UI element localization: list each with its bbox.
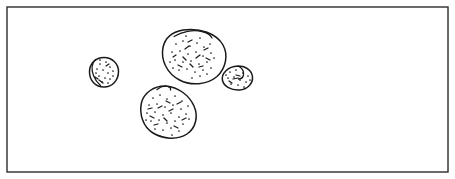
stone-bottom-middle-speckle-22 [154, 128, 156, 130]
stone-top-large-speckle-7 [179, 50, 181, 52]
stone-bottom-middle-speckle-24 [170, 127, 172, 129]
stone-top-large-speckle-26 [172, 67, 174, 69]
stone-top-large-speckle-28 [199, 75, 201, 77]
stone-top-large-speckle-6 [171, 51, 173, 53]
stone-left-small-speckle-1 [105, 61, 107, 63]
stone-top-large-speckle-13 [182, 61, 184, 63]
stone-bottom-middle-speckle-25 [178, 130, 180, 132]
stone-left-small-speckle-8 [104, 77, 106, 79]
stone-bottom-middle-speckle-0 [152, 97, 154, 99]
stone-right-small-speckle-3 [247, 75, 249, 77]
stone-top-large-speckle-1 [182, 40, 184, 42]
stone-top-large-speckle-4 [203, 46, 205, 48]
stone-top-large-speckle-21 [202, 69, 204, 71]
stone-right-small-speckle-10 [243, 86, 245, 88]
stone-left-small-speckle-7 [98, 75, 100, 77]
stone-bottom-middle-speckle-7 [164, 106, 166, 108]
stone-left-small-speckle-3 [96, 68, 98, 70]
stone-bottom-middle-speckle-8 [172, 104, 174, 106]
stone-bottom-middle-speckle-6 [156, 103, 158, 105]
stone-left-small [90, 58, 119, 88]
stone-top-large-speckle-14 [190, 60, 192, 62]
stone-top-large-speckle-20 [194, 71, 196, 73]
stone-top-large-speckle-3 [196, 42, 198, 44]
stone-left-small-speckle-4 [102, 69, 104, 71]
stone-top-large-speckle-12 [174, 59, 176, 61]
stone-bottom-middle-speckle-9 [180, 108, 182, 110]
stone-bottom-middle-speckle-28 [159, 135, 161, 137]
stone-top-large-speckle-5 [209, 43, 211, 45]
stone-top-large-speckle-8 [187, 53, 189, 55]
stone-left-small-speckle-9 [109, 78, 111, 80]
stones-line-drawing [0, 0, 455, 179]
stone-top-large-speckle-17 [213, 57, 215, 59]
stone-bottom-middle-speckle-23 [162, 129, 164, 131]
outer-border-rect [7, 7, 448, 172]
stone-bottom-middle-speckle-1 [159, 94, 161, 96]
stone-top-large-speckle-15 [198, 63, 200, 65]
stone-top-large-speckle-23 [210, 67, 212, 69]
stone-top-large-speckle-25 [199, 37, 201, 39]
stone-bottom-middle-speckle-3 [174, 95, 176, 97]
stone-right-small-speckle-9 [237, 84, 239, 86]
stone-top-large [162, 29, 225, 83]
stone-right-small-speckle-5 [233, 76, 235, 78]
stone-bottom-middle-speckle-14 [170, 112, 172, 114]
stone-right-small-speckle-2 [242, 72, 244, 74]
stone-right-small-speckle-7 [245, 81, 247, 83]
stone-bottom-middle-speckle-27 [188, 118, 190, 120]
stone-top-large-speckle-9 [195, 51, 197, 53]
stone-right-small-speckle-1 [235, 69, 237, 71]
stone-left-small-speckle-12 [107, 82, 109, 84]
stone-top-large-speckle-16 [206, 61, 208, 63]
stone-bottom-middle-speckle-29 [171, 134, 173, 136]
stone-top-large-speckle-11 [210, 52, 212, 54]
stone-bottom-middle-speckle-17 [150, 120, 152, 122]
stone-bottom-middle-speckle-10 [187, 105, 189, 107]
stone-right-small-speckle-0 [229, 71, 231, 73]
stone-bottom-middle-speckle-12 [154, 111, 156, 113]
stone-left-small-speckle-5 [107, 72, 109, 74]
stone-right-small-speckle-4 [227, 77, 229, 79]
stone-top-large-speckle-18 [178, 69, 180, 71]
stone-left-small-speckle-10 [95, 72, 97, 74]
stone-top-large-speckle-27 [191, 77, 193, 79]
stone-bottom-middle-speckle-5 [148, 104, 150, 106]
stone-top-large-speckle-24 [185, 35, 187, 37]
stone-bottom-middle-speckle-16 [185, 113, 187, 115]
stone-bottom-middle-speckle-20 [174, 120, 176, 122]
stone-top-large-speckle-19 [186, 68, 188, 70]
stone-bottom-middle-speckle-19 [166, 122, 168, 124]
stone-left-small-speckle-2 [109, 66, 111, 68]
stone-left-small-speckle-14 [99, 59, 101, 61]
stone-top-large-speckle-22 [169, 61, 171, 63]
stone-bottom-middle-speckle-18 [158, 119, 160, 121]
stone-top-large-speckle-10 [202, 55, 204, 57]
stone-top-large-speckle-0 [175, 43, 177, 45]
stone-right-small-speckle-12 [249, 79, 251, 81]
figure-canvas: Line drawing of four speckled stones Han… [0, 0, 455, 179]
stone-right-small-speckle-11 [225, 74, 227, 76]
stone-left-small-speckle-0 [99, 63, 101, 65]
stone-bottom-middle-speckle-2 [166, 98, 168, 100]
stone-top-large-speckle-29 [206, 73, 208, 75]
stone-right-small [222, 66, 252, 90]
stone-bottom-middle-speckle-11 [146, 112, 148, 114]
stone-bottom-middle-speckle-13 [162, 114, 164, 116]
stone-bottom-middle-speckle-15 [178, 116, 180, 118]
stone-left-small-speckle-13 [112, 75, 114, 77]
stone-top-large-outline [162, 29, 225, 83]
stone-bottom-middle-speckle-26 [145, 119, 147, 121]
stone-right-small-speckle-6 [239, 79, 241, 81]
stone-left-small-speckle-6 [112, 70, 114, 72]
stone-bottom-middle-speckle-21 [182, 123, 184, 125]
